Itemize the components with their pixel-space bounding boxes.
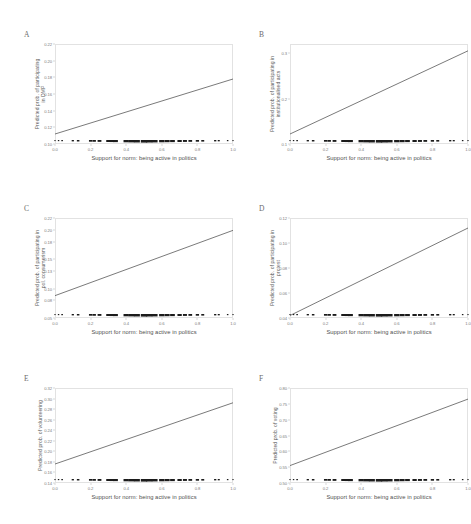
rug-mark (431, 314, 434, 316)
rug-mark (462, 314, 464, 315)
rug-mark (359, 140, 364, 142)
rug-mark (312, 314, 315, 315)
rug-mark (98, 479, 102, 481)
rug-mark (61, 479, 63, 480)
x-axis-label: Support for norm: being active in politi… (55, 494, 233, 500)
rug-mark (431, 140, 434, 142)
rug-mark (113, 314, 118, 316)
chart-panel-d: DPredicted prob. of participating inprot… (235, 196, 470, 366)
rug-mark (449, 140, 451, 141)
rug-mark (467, 479, 468, 480)
rug-mark (113, 140, 118, 142)
rug-mark (227, 314, 229, 315)
rug-mark (129, 479, 135, 481)
rug-mark (418, 314, 422, 316)
rug-mark (227, 479, 229, 480)
rug-mark (159, 314, 164, 316)
rug-mark (196, 479, 199, 481)
rug-mark (61, 314, 63, 315)
rug-mark (89, 314, 92, 316)
rug-mark (232, 479, 233, 480)
rug-mark (405, 479, 410, 481)
x-axis-label: Support for norm: being active in politi… (55, 329, 233, 335)
plot-area (235, 366, 470, 524)
rug-mark (418, 479, 422, 481)
x-axis-label: Support for norm: being active in politi… (290, 329, 468, 335)
rug-mark (58, 140, 59, 141)
rug-mark (369, 314, 375, 316)
regression-line (290, 399, 468, 466)
rug-mark (296, 479, 298, 480)
rug-mark (170, 479, 175, 481)
rug-mark (89, 140, 92, 142)
chart-panel-f: FPredicted prob. of voting0.500.550.600.… (235, 366, 470, 524)
rug-mark (312, 479, 315, 480)
rug-mark (324, 479, 327, 481)
rug-mark (196, 140, 199, 142)
rug-mark (201, 479, 204, 481)
rug-mark (324, 140, 327, 142)
rug-mark (141, 479, 147, 482)
rug-mark (72, 314, 74, 315)
rug-mark (412, 140, 416, 142)
chart-panel-b: BPredicted prob. of participating ininst… (235, 0, 470, 196)
rug-mark (348, 479, 353, 481)
rug-mark (369, 140, 375, 142)
rug-mark (227, 140, 229, 141)
rug-mark (177, 140, 181, 142)
regression-line (290, 51, 468, 134)
chart-panel-e: EPredicted prob. of volunteering0.140.16… (0, 366, 235, 524)
rug-mark (201, 314, 204, 316)
rug-mark (289, 140, 290, 141)
rug-mark (214, 140, 216, 141)
rug-mark (394, 479, 399, 481)
rug-mark (134, 140, 140, 142)
rug-mark (359, 479, 364, 481)
rug-mark (124, 314, 129, 316)
rug-mark (405, 314, 410, 316)
regression-line (55, 230, 233, 295)
rug-mark (453, 479, 455, 480)
rug-mark (307, 479, 309, 480)
rug-mark (124, 479, 129, 481)
plot-area (0, 196, 235, 366)
rug-mark (405, 140, 410, 142)
rug-mark (54, 314, 55, 315)
rug-mark (58, 314, 59, 315)
rug-mark (348, 140, 353, 142)
rug-mark (61, 140, 63, 141)
x-axis-label: Support for norm: being active in politi… (55, 155, 233, 161)
rug-mark (369, 479, 375, 481)
rug-mark (376, 314, 382, 317)
rug-mark (359, 314, 364, 316)
rug-mark (436, 140, 439, 142)
rug-mark (307, 140, 309, 141)
rug-mark (364, 140, 370, 142)
rug-mark (312, 140, 315, 141)
rug-mark (387, 479, 393, 481)
rug-mark (333, 314, 337, 316)
rug-mark (177, 314, 181, 316)
rug-mark (296, 140, 298, 141)
rug-mark (218, 479, 220, 480)
rug-mark (141, 140, 147, 143)
rug-mark (188, 479, 192, 481)
rug-mark (293, 140, 294, 141)
rug-mark (453, 140, 455, 141)
rug-mark (113, 479, 118, 481)
rug-mark (134, 479, 140, 481)
rug-mark (327, 314, 330, 316)
rug-mark (467, 140, 468, 141)
rug-mark (232, 314, 233, 315)
rug-mark (92, 479, 95, 481)
rug-mark (324, 314, 327, 316)
rug-mark (146, 479, 152, 482)
rug-mark (467, 314, 468, 315)
rug-mark (218, 314, 220, 315)
rug-mark (98, 314, 102, 316)
rug-mark (214, 479, 216, 480)
rug-mark (462, 479, 464, 480)
rug-mark (196, 314, 199, 316)
rug-mark (327, 479, 330, 481)
